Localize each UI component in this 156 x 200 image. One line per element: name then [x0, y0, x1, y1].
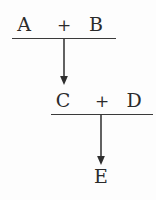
plus-operator-1: + [54, 17, 74, 34]
species-label-d: D [124, 91, 144, 110]
species-label-c: C [53, 91, 73, 110]
down-arrow-icon-step-1 [57, 39, 71, 87]
species-label-a: A [14, 15, 34, 34]
plus-operator-2: + [92, 93, 112, 110]
reaction-sequence-diagram: A + B C + D E [0, 0, 156, 200]
down-arrow-icon-step-2 [94, 115, 108, 167]
species-label-e: E [91, 167, 111, 186]
species-label-b: B [86, 15, 106, 34]
